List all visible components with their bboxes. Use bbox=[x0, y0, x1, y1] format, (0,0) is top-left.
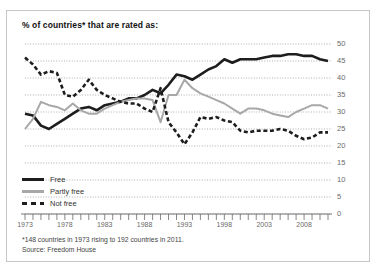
y-axis-tick-label: 35 bbox=[337, 90, 345, 99]
series-line-partly-free bbox=[25, 80, 328, 129]
legend-swatch-not-free-icon bbox=[22, 198, 44, 208]
chart-figure: % of countries* that are rated as: 05101… bbox=[0, 0, 378, 272]
chart-svg bbox=[0, 0, 378, 272]
series-line-free bbox=[25, 54, 328, 129]
y-axis-tick-label: 15 bbox=[337, 158, 345, 167]
y-axis-tick-label: 50 bbox=[337, 39, 345, 48]
x-axis-tick-label: 1998 bbox=[210, 221, 238, 228]
x-axis-tick-label: 1988 bbox=[131, 221, 159, 228]
legend-label-not-free: Not free bbox=[50, 199, 77, 208]
x-axis-tick-label: 1993 bbox=[170, 221, 198, 228]
y-axis-tick-label: 45 bbox=[337, 56, 345, 65]
legend-swatch-free-icon bbox=[22, 174, 44, 184]
legend-item-partly-free: Partly free bbox=[22, 186, 84, 196]
x-axis-tick-label: 1978 bbox=[51, 221, 79, 228]
x-axis-tick-label: 1973 bbox=[11, 221, 39, 228]
legend-item-free: Free bbox=[22, 174, 84, 184]
y-axis-tick-label: 25 bbox=[337, 124, 345, 133]
x-axis-tick-label: 2003 bbox=[250, 221, 278, 228]
x-axis-tick-label: 2008 bbox=[290, 221, 318, 228]
footnote-countries: *148 countries in 1973 rising to 192 cou… bbox=[22, 236, 184, 243]
chart-legend: Free Partly free Not free bbox=[22, 174, 84, 210]
series-line-not-free bbox=[25, 58, 328, 145]
y-axis-tick-label: 10 bbox=[337, 175, 345, 184]
y-axis-tick-label: 40 bbox=[337, 73, 345, 82]
footnote-source: Source: Freedom House bbox=[22, 246, 96, 253]
data-series-group bbox=[25, 54, 328, 144]
x-axis bbox=[21, 214, 332, 220]
legend-item-not-free: Not free bbox=[22, 198, 84, 208]
legend-swatch-partly-free-icon bbox=[22, 186, 44, 196]
plot-area: 05101520253035404550 1973197819831988199… bbox=[0, 0, 378, 272]
y-axis-tick-label: 30 bbox=[337, 107, 345, 116]
x-axis-tick-label: 1983 bbox=[91, 221, 119, 228]
y-axis-tick-label: 5 bbox=[337, 192, 341, 201]
y-axis-tick-label: 20 bbox=[337, 141, 345, 150]
legend-label-free: Free bbox=[50, 175, 65, 184]
legend-label-partly-free: Partly free bbox=[50, 187, 84, 196]
y-axis-tick-label: 0 bbox=[337, 209, 341, 218]
